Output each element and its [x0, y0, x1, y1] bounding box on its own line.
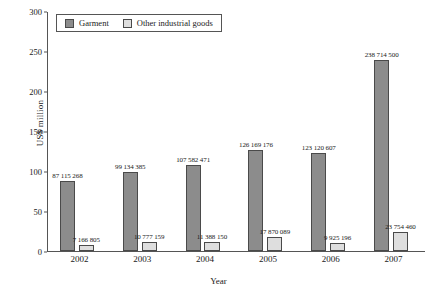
bar-2005-series-1[interactable]: 17 870 089	[267, 237, 282, 251]
bar-value-label: 10 777 159	[134, 233, 165, 241]
bar-value-label: 99 134 385	[115, 163, 146, 171]
y-axis-label: US$ million	[35, 63, 45, 183]
legend-label-garment: Garment	[79, 18, 109, 28]
legend-item-other-industrial-goods[interactable]: Other industrial goods	[123, 18, 213, 28]
y-tick-mark	[44, 12, 47, 13]
x-tick-label: 2003	[111, 254, 174, 264]
legend-item-garment[interactable]: Garment	[65, 18, 109, 28]
bar-2002-series-1[interactable]: 7 166 805	[79, 245, 94, 251]
legend-swatch-garment	[65, 19, 74, 28]
y-tick-mark	[44, 252, 47, 253]
bar-group: 123 120 6079 925 196	[299, 12, 362, 251]
bar-2003-series-1[interactable]: 10 777 159	[142, 242, 157, 251]
bar-groups: 87 115 2687 166 80599 134 38510 777 1591…	[48, 12, 425, 251]
y-tick-mark	[44, 172, 47, 173]
bar-2006-series-1[interactable]: 9 925 196	[330, 243, 345, 251]
bar-value-label: 126 169 176	[239, 141, 273, 149]
x-tick-label: 2007	[362, 254, 425, 264]
bar-value-label: 87 115 268	[52, 172, 82, 180]
bar-value-label: 9 925 196	[324, 234, 351, 242]
bar-value-label: 238 714 500	[365, 51, 399, 59]
plot-area: 050100150200250300 87 115 2687 166 80599…	[47, 12, 425, 252]
bar-2007-series-1[interactable]: 23 754 460	[393, 232, 408, 251]
bar-value-label: 17 870 089	[260, 228, 291, 236]
bar-2005-series-0[interactable]: 126 169 176	[248, 150, 263, 251]
bar-value-label: 23 754 460	[385, 223, 416, 231]
x-axis-label: Year	[0, 276, 437, 286]
bar-value-label: 123 120 607	[302, 144, 336, 152]
y-tick-mark	[44, 52, 47, 53]
bar-2004-series-1[interactable]: 11 388 150	[204, 242, 219, 251]
chart-legend: Garment Other industrial goods	[56, 14, 222, 32]
x-tick-label: 2005	[236, 254, 299, 264]
y-tick-mark	[44, 212, 47, 213]
bar-group: 126 169 17617 870 089	[236, 12, 299, 251]
x-tick-label: 2004	[174, 254, 237, 264]
bar-value-label: 11 388 150	[197, 233, 227, 241]
y-tick-mark	[44, 92, 47, 93]
x-tick-label: 2002	[48, 254, 111, 264]
x-tick-label: 2006	[299, 254, 362, 264]
bar-group: 99 134 38510 777 159	[111, 12, 174, 251]
bar-value-label: 107 582 471	[176, 156, 210, 164]
bar-value-label: 7 166 805	[73, 236, 100, 244]
x-axis-ticks: 200220032004200520062007	[48, 254, 425, 264]
x-axis-line	[47, 251, 425, 252]
bar-group: 87 115 2687 166 805	[48, 12, 111, 251]
bar-group: 107 582 47111 388 150	[174, 12, 237, 251]
legend-swatch-other-industrial-goods	[123, 19, 132, 28]
bar-group: 238 714 50023 754 460	[362, 12, 425, 251]
y-tick-mark	[44, 132, 47, 133]
bar-chart: US$ million Year 050100150200250300 87 1…	[0, 0, 437, 299]
legend-label-other-industrial-goods: Other industrial goods	[137, 18, 213, 28]
